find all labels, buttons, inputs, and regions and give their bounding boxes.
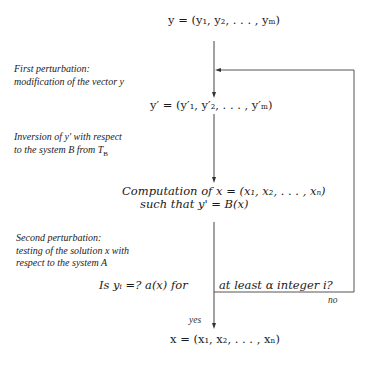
annotation-inversion: Inversion of y' with respect to the syst… [14, 131, 122, 160]
node-output-vector: x = (x₁, x₂, . . . , xₙ) [170, 332, 280, 346]
node-perturbed-vector: y′ = (y′₁, y′₂, . . . , y′ₘ) [150, 98, 273, 112]
annotation-first-perturbation: First perturbation: modification of the … [14, 63, 124, 88]
edge-label-yes: yes [189, 315, 201, 325]
test-condition-left: Is yᵢ =? a(x) for [99, 278, 188, 292]
output-vector-text: x = (x₁, x₂, . . . , xₙ) [170, 332, 280, 346]
no-label: no [328, 295, 338, 305]
second-perturbation-title: Second perturbation: [16, 232, 129, 245]
annotation-second-perturbation: Second perturbation: testing of the solu… [16, 232, 129, 270]
node-test-left: Is yᵢ =? a(x) for [99, 278, 188, 292]
perturbed-vector-text: y′ = (y′₁, y′₂, . . . , y′ₘ) [150, 98, 273, 112]
inversion-desc: to the system B from T [14, 144, 103, 155]
yes-label: yes [189, 315, 201, 325]
node-computation: Computation of x = (x₁, x₂, . . . , xₙ) … [122, 185, 326, 211]
test-condition-right: at least α integer i? [219, 278, 333, 292]
inversion-title: Inversion of y' with respect [14, 131, 122, 144]
first-perturbation-desc: modification of the vector y [14, 76, 124, 89]
edge-label-no: no [328, 295, 338, 305]
inversion-subscript: B [103, 150, 108, 158]
node-input-vector: y = (y₁, y₂, . . . , yₘ) [168, 13, 280, 27]
input-vector-text: y = (y₁, y₂, . . . , yₘ) [168, 13, 280, 27]
second-perturbation-desc1: testing of the solution x with [16, 245, 129, 258]
computation-line2: such that y' = B(x) [122, 198, 326, 211]
first-perturbation-title: First perturbation: [14, 63, 124, 76]
second-perturbation-desc2: respect to the system A [16, 257, 129, 270]
flow-lines [0, 0, 370, 365]
node-test-right: at least α integer i? [219, 278, 333, 292]
